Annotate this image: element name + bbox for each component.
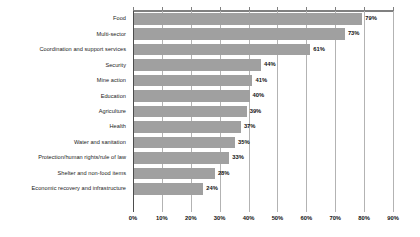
bar-value-label: 61% xyxy=(313,44,325,56)
top-tick-70 xyxy=(335,7,336,10)
bar xyxy=(134,152,229,164)
top-tick-30 xyxy=(220,7,221,10)
horizontal-bar-chart: FoodMulti-sectorCoordination and support… xyxy=(0,0,420,237)
bar-value-label: 33% xyxy=(232,152,244,164)
category-label: Health xyxy=(0,123,126,130)
category-label: Security xyxy=(0,62,126,69)
top-tick-0 xyxy=(133,7,134,10)
bar-value-label: 79% xyxy=(365,13,377,25)
bar-value-label: 44% xyxy=(264,59,276,71)
category-label: Protection/human rights/rule of law xyxy=(0,154,126,161)
bar xyxy=(134,137,235,149)
bar-value-label: 28% xyxy=(218,168,230,180)
plot-area: 79%73%61%44%41%40%39%37%35%33%28%24% xyxy=(133,11,393,212)
gridline-90 xyxy=(393,11,394,212)
bar-value-label: 41% xyxy=(255,75,267,87)
bar xyxy=(134,183,203,195)
top-tick-20 xyxy=(191,7,192,10)
category-axis: FoodMulti-sectorCoordination and support… xyxy=(0,11,130,212)
x-tick-label: 50% xyxy=(272,214,284,222)
bar-value-label: 40% xyxy=(253,90,265,102)
bar xyxy=(134,28,345,40)
top-tick-10 xyxy=(162,7,163,10)
bar-value-label: 37% xyxy=(244,121,256,133)
x-tick-label: 90% xyxy=(387,214,399,222)
bar xyxy=(134,59,261,71)
x-tick-label: 80% xyxy=(358,214,370,222)
x-tick-label: 30% xyxy=(214,214,226,222)
bar-value-label: 39% xyxy=(250,106,262,118)
category-label: Education xyxy=(0,93,126,100)
bar-value-label: 24% xyxy=(206,183,218,195)
top-tick-80 xyxy=(364,7,365,10)
bar xyxy=(134,13,362,25)
x-tick-label: 0% xyxy=(129,214,137,222)
bar-series: 79%73%61%44%41%40%39%37%35%33%28%24% xyxy=(133,11,393,212)
category-label: Food xyxy=(0,15,126,22)
top-tick-40 xyxy=(249,7,250,10)
x-tick-label: 20% xyxy=(185,214,197,222)
category-label: Multi-sector xyxy=(0,31,126,38)
bar xyxy=(134,168,215,180)
category-label: Mine action xyxy=(0,77,126,84)
bar xyxy=(134,75,252,87)
category-label: Agriculture xyxy=(0,108,126,115)
category-label: Shelter and non-food items xyxy=(0,170,126,177)
category-label: Coordination and support services xyxy=(0,46,126,53)
x-tick-label: 40% xyxy=(243,214,255,222)
bar xyxy=(134,44,310,56)
bar xyxy=(134,121,241,133)
bar-value-label: 73% xyxy=(348,28,360,40)
value-axis: 0%10%20%30%40%50%60%70%80%90% xyxy=(133,212,394,226)
category-label: Economic recovery and infrastructure xyxy=(0,185,126,192)
top-tick-60 xyxy=(306,7,307,10)
x-tick-label: 70% xyxy=(329,214,341,222)
top-tick-90 xyxy=(393,7,394,10)
bar xyxy=(134,106,247,118)
bar-value-label: 35% xyxy=(238,137,250,149)
x-tick-label: 10% xyxy=(156,214,168,222)
category-label: Water and sanitation xyxy=(0,139,126,146)
bar xyxy=(134,90,250,102)
x-tick-label: 60% xyxy=(301,214,313,222)
top-tick-50 xyxy=(277,7,278,10)
